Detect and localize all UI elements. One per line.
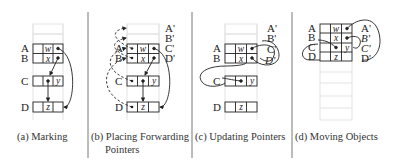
caption-d: (d) Moving Objects: [295, 130, 378, 143]
panel-b-forwarding-pointers: [106, 28, 133, 108]
caption-a: (a) Marking: [17, 130, 67, 143]
cell-value-y: y: [344, 43, 350, 53]
cell-value-w: w: [238, 44, 245, 54]
cell-value-z: z: [140, 102, 145, 112]
row-label-b: B: [21, 52, 28, 64]
caption-b-line2: Pointers: [105, 143, 139, 156]
cell-value-x: x: [238, 54, 244, 64]
row-label-d: D: [213, 101, 221, 113]
forward-label-d: D': [361, 52, 371, 64]
cell-value-z: z: [333, 52, 338, 62]
row-label-d: D: [21, 101, 29, 113]
caption-c: (c) Updating Pointers: [195, 130, 285, 143]
cell-value-w: w: [45, 44, 52, 54]
cell-value-w: w: [140, 44, 147, 54]
caption-b-line1: (b) Placing Forwarding: [91, 130, 189, 143]
cell-value-x: x: [45, 54, 51, 64]
row-label-b: B: [213, 52, 220, 64]
row-label-c: C: [21, 75, 28, 87]
cell-value-y: y: [249, 76, 255, 86]
cell-value-x: x: [333, 33, 339, 43]
cell-value-z: z: [238, 102, 243, 112]
cell-value-y: y: [55, 76, 61, 86]
cell-value-z: z: [45, 102, 50, 112]
cell-value-x: x: [140, 54, 146, 64]
cell-value-y: y: [151, 76, 157, 86]
